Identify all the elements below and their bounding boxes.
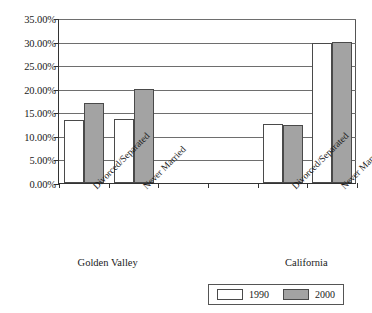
legend-swatch xyxy=(283,289,309,300)
legend-swatch xyxy=(217,289,243,300)
y-axis-tick-label: 10.00% xyxy=(0,131,56,142)
y-axis-tick-label: 35.00% xyxy=(0,14,56,25)
legend-entry: 1990 xyxy=(217,289,269,300)
y-axis-tick-label: 25.00% xyxy=(0,61,56,72)
y-axis-tick-label: 30.00% xyxy=(0,37,56,48)
y-axis-tick-label: 0.00% xyxy=(0,179,56,190)
chart-legend: 19902000 xyxy=(208,284,344,305)
x-axis-category-label: Divorced/Separated xyxy=(91,184,99,192)
legend-entry: 2000 xyxy=(283,289,335,300)
y-axis-tick-label: 15.00% xyxy=(0,108,56,119)
x-axis-category-labels: Divorced/SeparatedNever MarriedDivorced/… xyxy=(58,184,356,250)
bar xyxy=(263,124,283,183)
x-axis-tick-mark xyxy=(357,183,358,188)
legend-label: 1990 xyxy=(249,289,269,300)
bars-layer xyxy=(59,19,356,183)
y-axis-tick-labels: 0.00%5.00%10.00%15.00%20.00%25.00%30.00%… xyxy=(0,12,56,188)
x-axis-category-label: Never Married xyxy=(339,184,347,192)
plot-area xyxy=(58,19,356,184)
group-label: Golden Valley xyxy=(78,256,138,269)
group-label: California xyxy=(285,256,328,269)
legend-label: 2000 xyxy=(315,289,335,300)
bar xyxy=(332,42,352,183)
bar-chart: 0.00%5.00%10.00%15.00%20.00%25.00%30.00%… xyxy=(0,0,372,313)
group-labels: Golden ValleyCalifornia xyxy=(58,256,356,272)
x-axis-category-label: Never Married xyxy=(141,184,149,192)
bar xyxy=(64,120,84,183)
bar xyxy=(84,103,104,183)
y-axis-tick-label: 5.00% xyxy=(0,155,56,166)
y-axis-tick-label: 20.00% xyxy=(0,84,56,95)
x-axis-category-label: Divorced/Separated xyxy=(290,184,298,192)
